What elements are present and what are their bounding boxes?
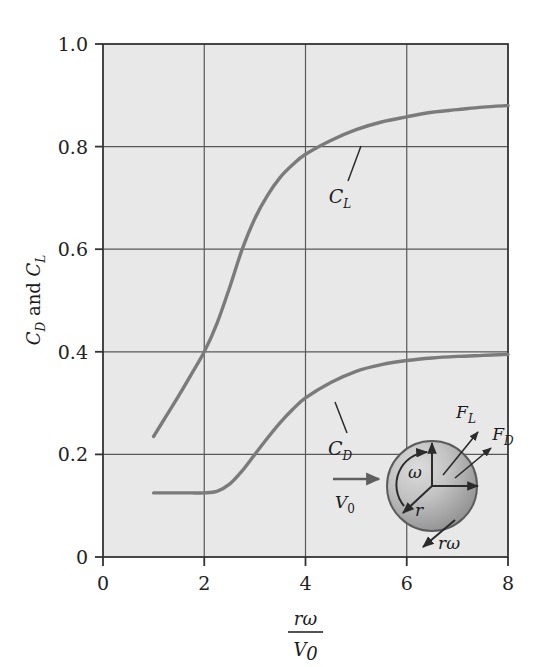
y-axis-title-and: and <box>23 277 44 322</box>
y-axis-title-cd: C <box>23 331 44 345</box>
y-tick-label-0.8: 0.8 <box>58 136 88 158</box>
x-axis-ticks <box>103 557 508 566</box>
y-axis-title-cl-sub: L <box>34 255 48 264</box>
x-tick-label-4: 4 <box>299 572 311 594</box>
y-axis-title: CD and CL <box>23 255 48 345</box>
y-tick-label-0: 0 <box>76 546 88 568</box>
tangential-velocity-label: rω <box>438 533 460 553</box>
x-tick-label-0: 0 <box>97 572 109 594</box>
y-tick-label-1.0: 1.0 <box>58 33 88 55</box>
y-axis-ticks <box>95 44 103 557</box>
y-tick-label-0.4: 0.4 <box>58 341 88 363</box>
svg-text:CD and CL: CD and CL <box>23 255 48 345</box>
y-tick-label-0.6: 0.6 <box>58 238 88 260</box>
x-axis-title-numerator: rω <box>294 608 318 629</box>
omega-label: ω <box>408 462 422 482</box>
x-tick-label-2: 2 <box>198 572 210 594</box>
y-tick-label-0.2: 0.2 <box>58 443 88 465</box>
x-axis-title: rω V 0 <box>288 608 323 664</box>
chart-svg: 1.0 0.8 0.6 0.4 0.2 0 0 2 4 6 8 CD and C… <box>0 0 542 667</box>
radius-label: r <box>415 500 424 520</box>
y-axis-title-cd-sub: D <box>34 321 48 332</box>
x-tick-label-8: 8 <box>502 572 514 594</box>
figure-container: 1.0 0.8 0.6 0.4 0.2 0 0 2 4 6 8 CD and C… <box>0 0 542 667</box>
x-tick-label-6: 6 <box>401 572 413 594</box>
plot-right-mask <box>509 270 527 365</box>
y-axis-title-cl: C <box>23 263 44 277</box>
cl-label-main: C <box>329 185 344 207</box>
lift-force-label-sub: L <box>467 412 476 426</box>
cl-label-sub: L <box>342 197 351 211</box>
drag-force-label-sub: D <box>503 434 514 448</box>
freestream-label-sub: 0 <box>347 502 355 516</box>
x-axis-title-denominator-sub: 0 <box>306 643 317 664</box>
cd-label-main: C <box>328 437 343 459</box>
cd-label-sub: D <box>341 449 352 463</box>
